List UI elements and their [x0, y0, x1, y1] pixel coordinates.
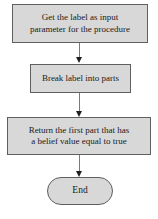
node-get-label-line-2: parameter for the procedure: [30, 24, 130, 36]
node-end-label: End: [72, 185, 87, 197]
arrow-down-icon: [76, 57, 82, 63]
connector-line-3: [79, 155, 80, 172]
node-break-label-line-1: Break label into parts: [42, 73, 119, 85]
node-return-part: Return the first part that has a belief …: [7, 117, 151, 155]
node-get-label: Get the label as input parameter for the…: [12, 4, 148, 43]
connector-line-1: [79, 43, 80, 58]
node-break-label: Break label into parts: [30, 64, 131, 93]
flowchart: Get the label as input parameter for the…: [0, 0, 158, 219]
node-end-terminator: End: [47, 177, 113, 205]
node-return-part-line-2: a belief value equal to true: [31, 136, 127, 148]
node-get-label-line-1: Get the label as input: [42, 12, 118, 24]
node-return-part-line-1: Return the first part that has: [29, 125, 130, 137]
connector-line-2: [79, 93, 80, 112]
